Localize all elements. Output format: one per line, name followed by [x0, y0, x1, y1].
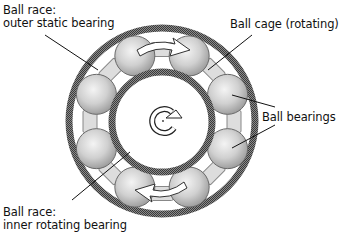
label-ball-bearings: Ball bearings: [262, 111, 336, 124]
label-outer-race: Ball race: outer static bearing: [3, 4, 114, 30]
label-inner-race-line2: inner rotating bearing: [3, 219, 127, 232]
inner-race-ring: [112, 72, 212, 172]
label-inner-race: Ball race: inner rotating bearing: [3, 206, 127, 232]
label-outer-race-line2: outer static bearing: [3, 17, 114, 30]
leader-outer-race: [45, 35, 98, 70]
ball-bearing: [115, 36, 155, 76]
label-ball-cage: Ball cage (rotating): [230, 18, 339, 31]
